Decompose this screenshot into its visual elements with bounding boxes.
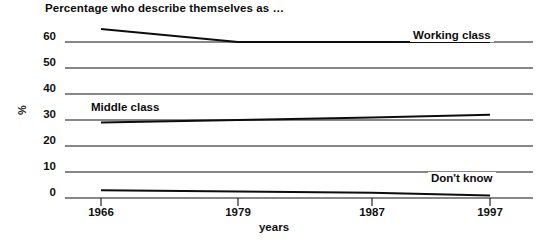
series-label-working-class: Working class — [410, 29, 494, 42]
series-line-dont-know — [101, 190, 490, 195]
x-tick-label-1966: 1966 — [76, 206, 126, 218]
chart-figure: Percentage who describe themselves as … … — [0, 0, 548, 243]
x-axis-ticks — [101, 198, 490, 206]
x-tick-label-1997: 1997 — [465, 206, 515, 218]
series-label-middle-class: Middle class — [88, 101, 162, 114]
series-label-dont-know: Don't know — [428, 172, 496, 185]
x-tick-label-1979: 1979 — [213, 206, 263, 218]
x-tick-label-1987: 1987 — [347, 206, 397, 218]
x-axis-title: years — [0, 221, 548, 233]
series-line-middle-class — [101, 115, 490, 123]
